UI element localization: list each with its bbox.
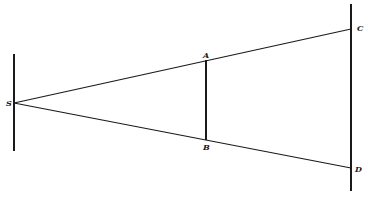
label-d: D xyxy=(354,164,362,174)
label-c: C xyxy=(357,23,364,33)
label-b: B xyxy=(202,142,210,152)
label-a: A xyxy=(202,50,209,60)
ray-s-to-c xyxy=(14,29,351,103)
label-s: S xyxy=(6,98,12,108)
ray-s-to-d xyxy=(14,103,351,168)
diagram-canvas: S A B C D xyxy=(0,0,368,198)
